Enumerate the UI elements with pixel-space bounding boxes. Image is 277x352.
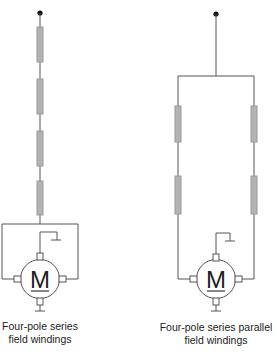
caption-line-2: field windings (156, 334, 276, 347)
field-coil-3 (37, 131, 43, 166)
field-coil-2 (37, 79, 43, 114)
field-coil-1 (175, 106, 181, 142)
brush-bottom (213, 298, 219, 305)
circuit-diagrams: M M (0, 0, 277, 352)
field-coil-2 (175, 176, 181, 214)
field-coil-1 (37, 27, 43, 62)
brush-top (213, 254, 219, 261)
motor-label: M (206, 266, 226, 293)
caption-line-1: Four-pole series (0, 320, 80, 333)
brush-left (190, 276, 197, 282)
caption-line-1: Four-pole series parallel (156, 321, 276, 334)
series-caption: Four-pole series field windings (0, 320, 80, 346)
field-coil-3 (251, 106, 257, 142)
brush-right (59, 276, 66, 282)
series-parallel-caption: Four-pole series parallel field windings (156, 321, 276, 347)
brush-left (14, 276, 21, 282)
brush-top (37, 253, 43, 260)
brush-bottom (37, 298, 43, 305)
caption-line-2: field windings (0, 333, 80, 346)
field-coil-4 (251, 176, 257, 214)
brush-right (235, 276, 242, 282)
field-coil-4 (37, 181, 43, 215)
motor-label: M (30, 266, 50, 293)
